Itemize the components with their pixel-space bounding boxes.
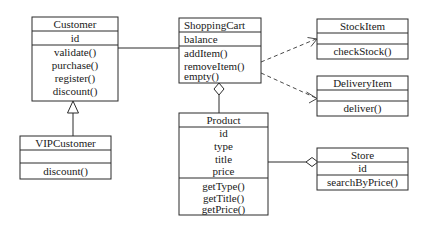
class-box-customer[interactable]: Customer id validate() purchase() regist…	[32, 17, 118, 101]
class-box-product[interactable]: Product id type title price getType() ge…	[179, 113, 268, 216]
class-name-product: Product	[206, 114, 240, 126]
class-name-store: Store	[351, 149, 374, 161]
diagram-canvas: Customer id validate() purchase() regist…	[0, 0, 423, 225]
class-box-stockitem[interactable]: StockItem checkStock()	[317, 19, 408, 59]
rel-aggregation-cart-product	[214, 83, 224, 113]
class-name-vipcustomer: VIPCustomer	[35, 137, 96, 149]
class-attribute-customer-id: id	[71, 32, 80, 44]
class-operation-shoppingcart-empty: empty()	[184, 70, 219, 83]
class-box-store[interactable]: Store id searchByPrice()	[317, 148, 408, 190]
class-attribute-shoppingcart-balance: balance	[184, 33, 218, 45]
class-operation-product-getprice: getPrice()	[202, 203, 246, 216]
uml-class-diagram: Customer id validate() purchase() regist…	[0, 0, 423, 225]
class-operation-shoppingcart-additem: addItem()	[184, 47, 228, 60]
class-operation-customer-validate: validate()	[54, 46, 96, 59]
class-operation-deliveryitem-deliver: deliver()	[344, 102, 382, 115]
rel-generalization-vip-customer	[68, 101, 79, 136]
class-attribute-store-id: id	[358, 162, 367, 174]
rel-aggregation-store-product	[268, 158, 318, 167]
class-name-deliveryitem: DeliveryItem	[333, 77, 392, 89]
class-name-customer: Customer	[54, 18, 97, 30]
rel-dependency-cart-stockitem	[261, 38, 317, 63]
class-operation-customer-purchase: purchase()	[52, 59, 99, 72]
class-attribute-product-price: price	[213, 165, 235, 177]
class-attribute-product-id: id	[219, 127, 228, 139]
class-attribute-product-type: type	[214, 140, 233, 152]
class-operation-store-searchbyprice: searchByPrice()	[327, 176, 398, 189]
class-operation-customer-discount: discount()	[53, 85, 98, 98]
class-attribute-product-title: title	[215, 153, 232, 165]
class-name-shoppingcart: ShoppingCart	[184, 19, 245, 31]
rel-dependency-cart-deliveryitem	[261, 73, 317, 103]
class-box-deliveryitem[interactable]: DeliveryItem deliver()	[317, 76, 408, 116]
class-name-stockitem: StockItem	[340, 20, 386, 32]
class-operation-customer-register: register()	[55, 72, 96, 85]
class-operation-vipcustomer-discount: discount()	[43, 165, 88, 178]
class-box-vipcustomer[interactable]: VIPCustomer discount()	[20, 136, 111, 179]
class-operation-stockitem-checkstock: checkStock()	[333, 45, 391, 58]
class-box-shoppingcart[interactable]: ShoppingCart balance addItem() removeIte…	[179, 18, 261, 83]
